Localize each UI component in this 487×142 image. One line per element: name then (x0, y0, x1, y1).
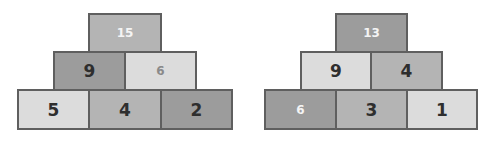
pyramid-right-bottom-block-3: 1 (406, 89, 478, 130)
pyramid-right-bottom-block-2: 3 (335, 89, 408, 130)
pyramid-right-middle-block-1: 9 (300, 51, 372, 91)
number-pyramid-right: 13 9 4 6 3 1 (0, 0, 487, 142)
pyramid-right-middle-block-2: 4 (370, 51, 443, 91)
pyramid-right-bottom-block-1: 6 (264, 89, 337, 130)
pyramid-right-top-block: 13 (335, 13, 408, 53)
